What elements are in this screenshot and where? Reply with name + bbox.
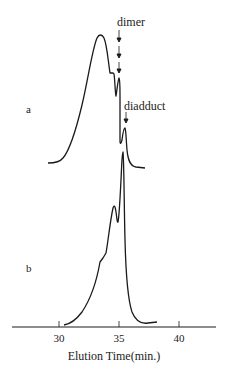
dimer-arrows (117, 30, 121, 73)
trace-b-curve (64, 152, 157, 325)
diadduct-arrow (124, 112, 128, 123)
x-tick-label-35: 35 (114, 332, 126, 344)
trace-a-label: a (26, 103, 31, 115)
x-axis-title: Elution Time(min.) (68, 349, 161, 363)
x-tick-label-40: 40 (174, 332, 186, 344)
x-tick-label-30: 30 (54, 332, 66, 344)
trace-b-label: b (26, 262, 32, 274)
diadduct-label: diadduct (124, 99, 166, 113)
dimer-label: dimer (117, 15, 145, 29)
chromatogram-figure: dimer diadduct a b 30 35 40 Elution Time… (0, 0, 228, 378)
